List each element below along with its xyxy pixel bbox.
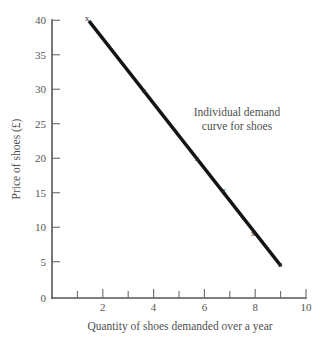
y-axis-ticks <box>52 20 60 262</box>
y-tick-label-35: 35 <box>35 49 47 61</box>
y-tick-label-30: 30 <box>35 83 47 95</box>
x-tick-label-8: 8 <box>252 301 258 313</box>
y-axis-title: Price of shoes (£) <box>10 118 23 199</box>
data-point-marker: x <box>222 185 227 195</box>
y-axis-tick-labels: 40 35 30 25 20 15 10 5 <box>35 14 47 268</box>
annotation-line-2: curve for shoes <box>202 120 273 132</box>
chart-canvas: 40 35 30 25 20 15 10 5 0 2 4 <box>0 0 323 338</box>
y-tick-label-25: 25 <box>35 118 47 130</box>
demand-curve-chart: 40 35 30 25 20 15 10 5 0 2 4 <box>0 0 323 338</box>
data-point-marker: x <box>142 85 147 95</box>
data-point-marker: x <box>278 259 283 269</box>
origin-label: 0 <box>41 292 47 304</box>
demand-curve-annotation: Individual demand curve for shoes <box>194 106 281 132</box>
x-axis-title: Quantity of shoes demanded over a year <box>87 320 272 333</box>
y-tick-label-15: 15 <box>35 187 47 199</box>
data-point-marker: x <box>85 13 90 23</box>
x-tick-label-6: 6 <box>202 301 208 313</box>
y-tick-label-40: 40 <box>35 14 47 26</box>
data-point-marker: x <box>195 153 200 163</box>
data-point-marker: x <box>251 228 256 238</box>
x-axis-tick-labels: 2 4 6 8 10 <box>100 301 312 313</box>
x-axis-ticks <box>77 289 306 298</box>
y-tick-label-10: 10 <box>35 221 47 233</box>
x-tick-label-10: 10 <box>301 301 313 313</box>
annotation-line-1: Individual demand <box>194 106 281 118</box>
x-tick-label-4: 4 <box>151 301 157 313</box>
y-tick-label-20: 20 <box>35 152 47 164</box>
x-tick-label-2: 2 <box>100 301 106 313</box>
y-tick-label-5: 5 <box>41 256 47 268</box>
